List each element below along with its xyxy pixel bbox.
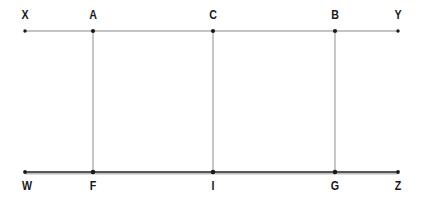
point-w — [23, 170, 27, 174]
point-b — [333, 29, 337, 33]
point-i — [211, 170, 216, 175]
label-z: Z — [390, 179, 406, 192]
label-c: C — [205, 8, 221, 21]
label-i: I — [205, 179, 221, 192]
label-x: X — [17, 8, 33, 21]
point-f — [91, 170, 96, 175]
label-g: G — [327, 179, 343, 192]
point-y — [396, 29, 399, 32]
point-c — [211, 29, 215, 33]
point-g — [333, 170, 338, 175]
point-a — [91, 29, 95, 33]
label-w: W — [19, 179, 35, 192]
geometry-diagram: X A C B Y W F I G Z — [0, 0, 424, 204]
label-f: F — [85, 179, 101, 192]
label-y: Y — [390, 8, 406, 21]
label-a: A — [85, 8, 101, 21]
point-x — [23, 29, 26, 32]
label-b: B — [327, 8, 343, 21]
diagram-canvas — [0, 0, 424, 204]
point-z — [396, 170, 400, 174]
